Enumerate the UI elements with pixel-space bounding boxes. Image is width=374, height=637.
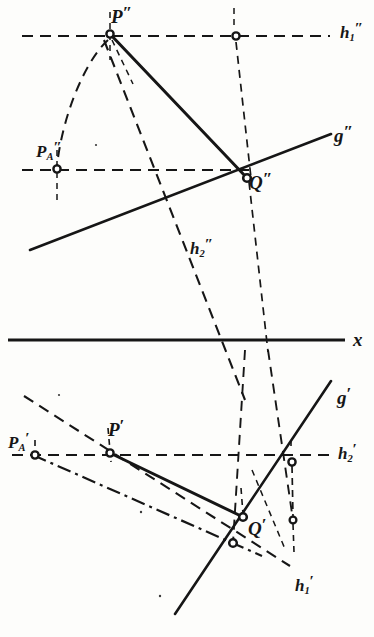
point-marker-pa-prime [31, 451, 38, 458]
label-g-double-prime: g″ [334, 123, 352, 145]
point-marker-p-double-prime [106, 30, 113, 37]
projector-lower-node-down [293, 524, 294, 552]
point-marker-p-prime [106, 449, 113, 456]
stray-specks [58, 144, 161, 597]
projector-q-prime-vertical [241, 488, 243, 514]
label-h1-double-prime: h1″ [340, 20, 363, 43]
point-marker-pa-double-prime [53, 165, 60, 172]
point-marker-q-prime [239, 513, 247, 521]
label-x-axis: x [353, 330, 363, 349]
label-p-double-prime: P″ [111, 4, 132, 26]
label-p-prime: P′ [108, 417, 124, 439]
point-marker-cross-node-prime [229, 539, 237, 547]
label-p-double-prime-base: P [111, 6, 123, 27]
label-q-double-prime-base: Q [249, 172, 263, 193]
label-q-double-prime: Q″ [249, 170, 272, 192]
label-q-double-prime-prime: ″ [263, 168, 272, 188]
h2-double-prime-inclined-line [104, 40, 245, 400]
label-pa-prime-prime: ′ [25, 429, 29, 446]
label-g-double-prime-prime: ″ [344, 121, 353, 141]
point-marker-h2-node-prime [288, 458, 295, 465]
label-g-prime: g′ [337, 385, 351, 407]
label-pa-double-prime-prime: ″ [53, 138, 61, 155]
label-g-double-prime-base: g [334, 125, 344, 146]
label-p-double-prime-prime: ″ [123, 2, 132, 22]
label-q-prime-prime: ′ [262, 514, 266, 534]
h1-prime-line [24, 396, 290, 566]
label-q-prime-base: Q [248, 518, 262, 539]
label-h1-prime-prime: ′ [310, 572, 314, 589]
label-q-prime: Q′ [248, 516, 266, 538]
label-x-axis-base: x [353, 329, 363, 350]
label-pa-double-prime: PA″ [36, 139, 61, 162]
label-pa-double-prime-base: P [36, 142, 46, 161]
segment-p-q-double-prime [110, 34, 247, 178]
point-marker-lower-node-prime [290, 517, 297, 524]
continuation-upper-projector-right [268, 350, 293, 520]
label-h2-double-prime: h2″ [190, 236, 213, 259]
segment-p-q-prime [110, 453, 243, 517]
lower-view-plan [12, 350, 331, 614]
point-marker-h1-node-double-prime [232, 32, 239, 39]
label-pa-prime: PA′ [8, 430, 29, 453]
label-g-prime-base: g [337, 387, 347, 408]
label-p-prime-base: P [108, 419, 120, 440]
label-p-prime-prime: ′ [120, 415, 124, 435]
label-h1-prime: h1′ [295, 573, 313, 596]
technical-drawing-figure: P″ PA″ Q″ g″ h1″ h2″ x P′ PA′ Q′ g′ h2′ … [0, 0, 374, 637]
projector-h2-node-down [292, 466, 293, 516]
label-h2-prime-prime: ′ [353, 440, 357, 457]
label-g-prime-prime: ′ [347, 383, 351, 403]
label-h2-prime: h2′ [338, 441, 356, 464]
label-h2-double-prime-prime: ″ [205, 235, 213, 252]
label-pa-prime-base: P [8, 433, 18, 452]
projector-node-to-q-double-prime [236, 42, 251, 178]
projector-q-double-prime-down [249, 182, 268, 352]
construction-drawing-canvas [0, 0, 374, 637]
rotation-arc-double-prime [57, 40, 108, 166]
label-h1-double-prime-prime: ″ [355, 19, 363, 36]
